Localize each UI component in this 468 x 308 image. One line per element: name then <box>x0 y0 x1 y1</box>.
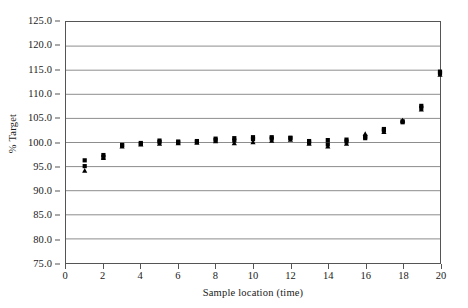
data-point-square <box>438 71 442 75</box>
data-point-square <box>232 138 236 142</box>
data-point-square <box>326 138 330 142</box>
y-tick-mark <box>55 142 60 143</box>
y-axis-title: % Target <box>7 114 18 153</box>
y-tick-mark <box>55 215 60 216</box>
x-tick-label: 6 <box>175 271 180 282</box>
x-tick-mark <box>366 264 367 269</box>
x-tick-label: 12 <box>285 271 296 282</box>
data-point-square <box>101 155 105 159</box>
x-tick-mark <box>215 264 216 269</box>
data-point-triangle <box>82 168 87 173</box>
data-point-square <box>419 106 423 110</box>
data-point-square <box>139 141 143 145</box>
x-tick-mark <box>403 264 404 269</box>
y-tick-label: 85.0 <box>33 210 52 221</box>
data-point-square <box>195 139 199 143</box>
y-tick-mark <box>55 21 60 22</box>
x-axis-tick-labels: 02468101214161820 <box>65 264 441 286</box>
x-tick-label: 18 <box>398 271 409 282</box>
x-tick-label: 14 <box>323 271 334 282</box>
x-tick-label: 2 <box>100 271 105 282</box>
y-tick-label: 100.0 <box>28 137 52 148</box>
x-axis-title: Sample location (time) <box>65 287 441 298</box>
data-point-layer <box>66 22 440 263</box>
x-tick-mark <box>291 264 292 269</box>
chart-figure: 75.080.085.090.095.0100.0105.0110.0115.0… <box>0 0 468 308</box>
y-tick-mark <box>55 264 60 265</box>
data-point-square <box>307 139 311 143</box>
data-point-square <box>382 128 386 132</box>
data-point-square <box>176 140 180 144</box>
y-tick-mark <box>55 166 60 167</box>
x-tick-label: 4 <box>138 271 143 282</box>
y-tick-mark <box>55 191 60 192</box>
y-tick-label: 125.0 <box>28 16 52 27</box>
data-point-square <box>401 119 405 123</box>
y-tick-label: 115.0 <box>28 64 52 75</box>
y-tick-label: 95.0 <box>33 162 52 173</box>
y-tick-mark <box>55 118 60 119</box>
data-point-square <box>363 136 367 140</box>
x-tick-label: 8 <box>213 271 218 282</box>
y-tick-mark <box>55 69 60 70</box>
x-tick-mark <box>103 264 104 269</box>
data-point-square <box>288 136 292 140</box>
y-tick-label: 75.0 <box>33 259 52 270</box>
y-tick-label: 105.0 <box>28 113 52 124</box>
y-tick-mark <box>55 45 60 46</box>
y-tick-label: 120.0 <box>28 40 52 51</box>
x-tick-mark <box>441 264 442 269</box>
x-tick-label: 20 <box>436 271 447 282</box>
data-point-square <box>120 143 124 147</box>
y-tick-label: 80.0 <box>33 234 52 245</box>
data-point-square <box>326 142 330 146</box>
data-point-square <box>83 158 87 162</box>
y-tick-mark <box>55 93 60 94</box>
data-point-square <box>83 164 87 168</box>
plot-area <box>65 21 441 264</box>
x-tick-mark <box>65 264 66 269</box>
data-point-square <box>251 137 255 141</box>
data-point-square <box>270 137 274 141</box>
x-tick-mark <box>328 264 329 269</box>
x-tick-label: 16 <box>361 271 372 282</box>
y-tick-label: 90.0 <box>33 186 52 197</box>
x-tick-label: 10 <box>248 271 259 282</box>
x-tick-mark <box>253 264 254 269</box>
data-point-triangle <box>363 131 368 136</box>
x-tick-label: 0 <box>62 271 67 282</box>
x-tick-mark <box>140 264 141 269</box>
y-tick-mark <box>55 239 60 240</box>
data-point-square <box>214 138 218 142</box>
data-point-square <box>157 140 161 144</box>
x-tick-mark <box>178 264 179 269</box>
y-tick-label: 110.0 <box>28 89 52 100</box>
data-point-square <box>344 139 348 143</box>
